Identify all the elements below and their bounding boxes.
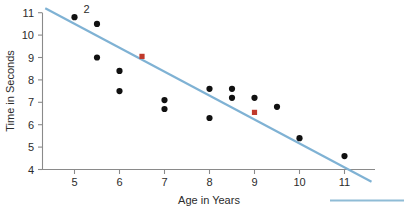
y-tick-label: 10 [22,29,34,41]
y-tick-label: 7 [28,96,34,108]
scatter-chart: 4 5 6 7 8 9 10 11 5 6 7 8 9 10 11 [0,0,413,216]
x-tick-label: 7 [161,176,167,188]
y-tick-label: 11 [23,7,34,19]
point-annotation: 2 [84,3,90,15]
data-point [161,97,167,103]
y-axis-title: Time in Seconds [4,50,16,132]
x-axis-title: Age in Years [178,194,240,206]
x-tick-marks [75,170,345,175]
x-tick-label: 8 [206,176,212,188]
trend-line [45,8,371,182]
chart-canvas: 4 5 6 7 8 9 10 11 5 6 7 8 9 10 11 [0,0,413,216]
data-point [71,14,77,20]
y-tick-label: 5 [28,141,34,153]
data-point [116,68,122,74]
data-point [341,153,347,159]
data-point-group-highlighted [139,54,257,115]
data-point [274,104,280,110]
y-tick-marks [38,13,43,170]
data-point [296,135,302,141]
x-tick-label: 9 [251,176,257,188]
y-tick-label: 9 [28,52,34,64]
x-tick-label: 10 [293,176,305,188]
y-tick-label: 8 [28,74,34,86]
highlighted-data-point [139,54,144,59]
y-tick-label: 4 [28,164,34,176]
x-tick-label: 6 [116,176,122,188]
data-point [161,106,167,112]
data-point-group-black [71,14,347,159]
x-tick-labels: 5 6 7 8 9 10 11 [71,176,350,188]
data-point [116,88,122,94]
highlighted-data-point [252,110,257,115]
y-tick-label: 6 [28,119,34,131]
data-point [94,54,100,60]
x-tick-label: 11 [339,176,350,188]
data-point [229,86,235,92]
data-point [251,95,257,101]
annotation-group: 2 [84,3,90,15]
x-tick-label: 5 [71,176,77,188]
data-point [94,21,100,27]
data-point [206,86,212,92]
data-point [206,115,212,121]
y-tick-labels: 4 5 6 7 8 9 10 11 [22,7,34,176]
data-point [229,95,235,101]
